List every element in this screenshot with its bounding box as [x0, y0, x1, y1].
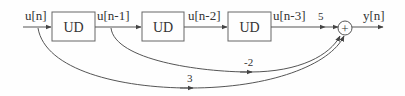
summer-plus-icon: + — [341, 21, 348, 36]
gain-label-neg2: -2 — [244, 56, 253, 68]
feedforward-path-u-n-1 — [111, 28, 340, 72]
gain-label-3: 3 — [187, 72, 193, 84]
signal-label-u-n-1: u[n-1] — [97, 8, 130, 23]
block-2-label: UD — [153, 20, 173, 35]
signal-label-u-n-2: u[n-2] — [188, 8, 221, 23]
signal-label-u-n-3: u[n-3] — [273, 8, 306, 23]
output-label: y[n] — [363, 8, 385, 23]
block-3-label: UD — [239, 20, 259, 35]
gain-label-5: 5 — [318, 10, 324, 22]
input-label: u[n] — [25, 8, 47, 23]
block-diagram: u[n] UD u[n-1] UD u[n-2] UD u[n-3] 5 + y… — [0, 0, 405, 96]
block-1-label: UD — [63, 20, 83, 35]
